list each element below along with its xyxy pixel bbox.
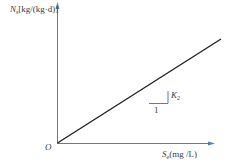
- diagram-canvas: Ns[kg/(kg·d)] O Se(mg /L) 1 K2: [0, 0, 236, 165]
- x-axis-arrow-icon: [208, 142, 215, 146]
- ns-se-line: [58, 39, 222, 143]
- slope-rise-subscript: 2: [177, 95, 180, 101]
- origin-label: O: [45, 143, 52, 152]
- y-axis-label: Ns[kg/(kg·d)]: [10, 5, 58, 15]
- y-axis-unit: [kg/(kg·d)]: [18, 4, 58, 14]
- slope-rise-label: K2: [171, 91, 180, 101]
- chart-svg: [0, 0, 236, 165]
- x-axis-unit: (mg /L): [169, 149, 197, 159]
- slope-triangle: [149, 91, 168, 104]
- x-axis-label: Se(mg /L): [162, 150, 197, 160]
- slope-run-label: 1: [154, 106, 159, 115]
